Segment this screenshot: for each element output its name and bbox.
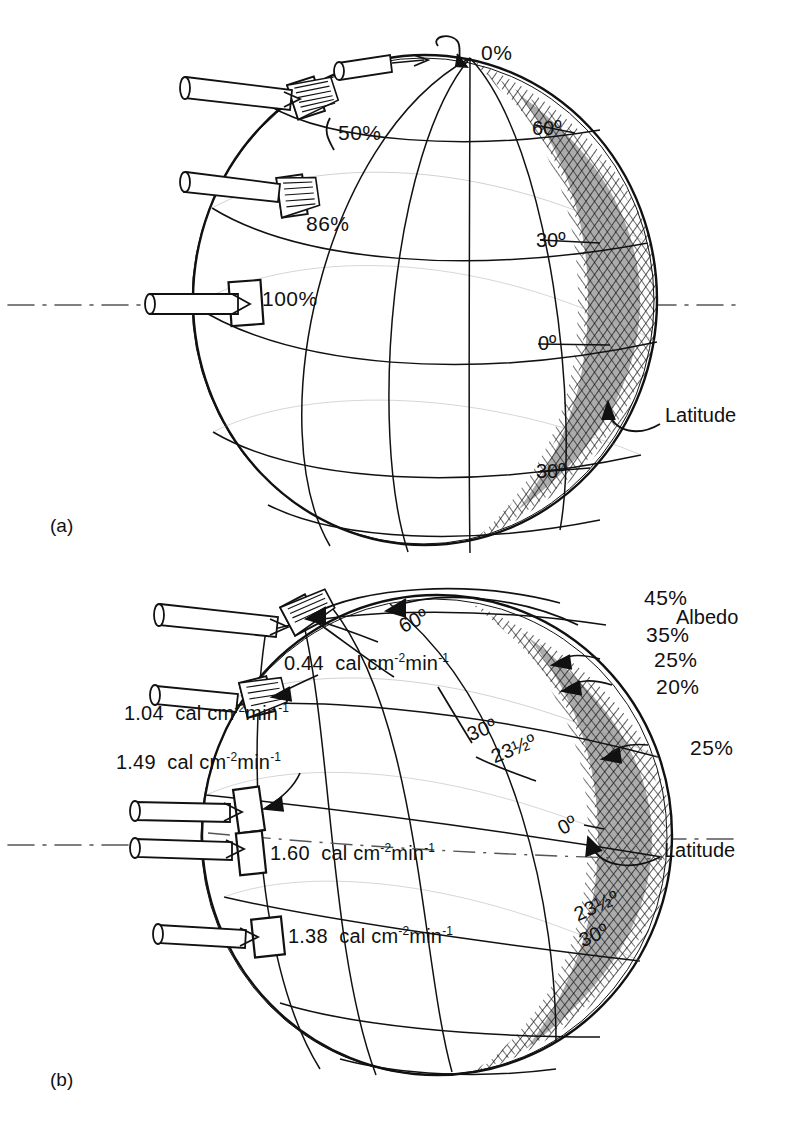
irradiance-value-1: 1.04 <box>124 702 164 724</box>
latitude-annotation-b: Latitude <box>664 840 735 860</box>
irradiance-unit-pre-3: cal cm <box>321 842 380 864</box>
irradiance-exp1-0: -2 <box>394 651 405 665</box>
latitude-label-0-a: 0º <box>538 333 556 353</box>
irradiance-unit-mid-4: min <box>409 925 442 947</box>
irradiance-value-2: 1.49 <box>116 751 156 773</box>
irradiance-label-1: 1.04 cal cm-2min-1 <box>124 702 289 723</box>
irradiance-exp1-2: -2 <box>226 750 237 764</box>
beam-100 <box>145 294 250 314</box>
intensity-label-50: 50% <box>338 122 382 143</box>
albedo-label-45: 45% <box>644 587 688 608</box>
irradiance-value-0: 0.44 <box>284 652 324 674</box>
irradiance-exp1-3: -2 <box>380 841 391 855</box>
irradiance-unit-pre-2: cal cm <box>167 751 226 773</box>
irradiance-unit-pre-1: cal cm <box>175 702 234 724</box>
irradiance-unit-pre-4: cal cm <box>339 925 398 947</box>
irradiance-label-0: 0.44 cal cm-2min-1 <box>284 652 449 673</box>
beam-160 <box>130 838 244 860</box>
irradiance-unit-mid-0: min <box>405 652 438 674</box>
panel-a: 0% 50% 86% 100% 60º 30º 0º 30º Latitude … <box>0 0 795 567</box>
irradiance-exp1-4: -2 <box>398 924 409 938</box>
beam-044 <box>154 604 288 637</box>
irradiance-unit-mid-2: min <box>237 751 270 773</box>
panel-letter-b: (b) <box>50 1070 73 1089</box>
irradiance-value-3: 1.60 <box>270 842 310 864</box>
albedo-label-20: 20% <box>656 676 700 697</box>
intensity-label-100: 100% <box>262 288 318 309</box>
beam-149 <box>130 801 242 822</box>
irradiance-exp2-1: -1 <box>278 701 289 715</box>
irradiance-label-4: 1.38 cal cm-2min-1 <box>288 925 453 946</box>
irradiance-unit-mid-3: min <box>391 842 424 864</box>
albedo-label-35: 35% <box>646 624 690 645</box>
panel-letter-a: (a) <box>50 516 73 535</box>
albedo-label-25-lower: 25% <box>690 737 734 758</box>
panel-a-drawing <box>0 0 795 567</box>
irradiance-exp1-1: -2 <box>234 701 245 715</box>
globe-a <box>145 36 660 553</box>
albedo-label-25-upper: 25% <box>654 649 698 670</box>
irradiance-exp2-3: -1 <box>424 841 435 855</box>
irradiance-label-3: 1.60 cal cm-2min-1 <box>270 842 435 863</box>
irradiance-unit-pre-0: cal cm <box>335 652 394 674</box>
irradiance-label-2: 1.49 cal cm-2min-1 <box>116 751 281 772</box>
irradiance-exp2-4: -1 <box>442 924 453 938</box>
latitude-label-30n-a: 30º <box>536 230 566 250</box>
irradiance-unit-mid-1: min <box>245 702 278 724</box>
irradiance-exp2-2: -1 <box>270 750 281 764</box>
intensity-label-0: 0% <box>481 42 512 63</box>
intensity-label-86: 86% <box>306 213 350 234</box>
irradiance-value-4: 1.38 <box>288 925 328 947</box>
beam-50 <box>180 77 300 110</box>
latitude-annotation-a: Latitude <box>665 405 736 425</box>
latitude-label-30s-a: 30º <box>536 461 566 481</box>
latitude-label-60-a: 60º <box>532 118 562 138</box>
panel-b: 45% Albedo 35% 25% 20% 25% 60º 30º 23½º … <box>0 567 795 1134</box>
irradiance-exp2-0: -1 <box>438 651 449 665</box>
